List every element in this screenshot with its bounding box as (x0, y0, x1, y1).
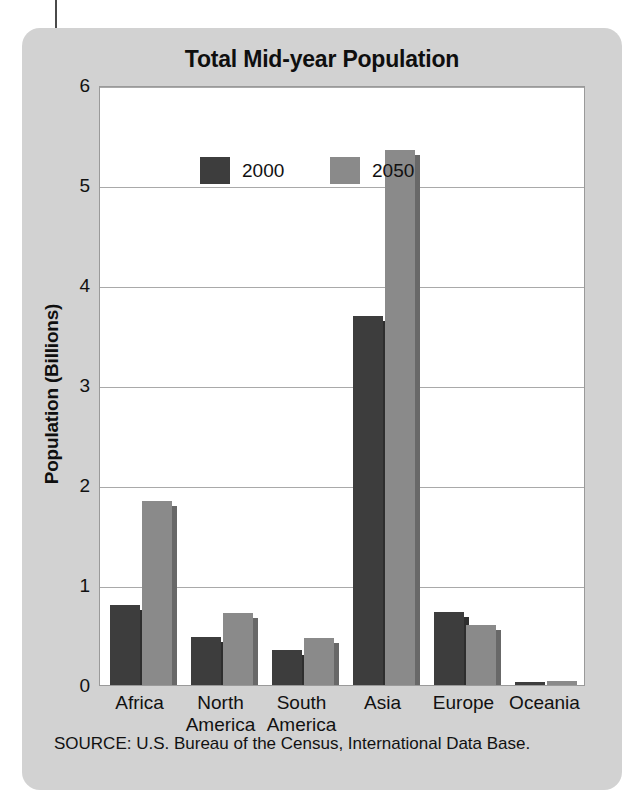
bar-2050-europe[interactable] (466, 625, 496, 685)
legend-swatch-2000 (200, 157, 230, 184)
bar-face (434, 612, 464, 685)
bar-face (385, 150, 415, 685)
bar-2000-south-america[interactable] (272, 650, 302, 685)
bar-2050-south-america[interactable] (304, 638, 334, 685)
bar-side-shadow (172, 506, 177, 685)
bar-2050-north-america[interactable] (223, 613, 253, 685)
bar-face (142, 501, 172, 685)
bar-2050-africa[interactable] (142, 501, 172, 685)
y-axis-tick-label: 0 (50, 675, 90, 697)
bar-face (110, 605, 140, 685)
bar-side-shadow (253, 618, 258, 685)
bar-group (110, 87, 172, 685)
gridline (100, 487, 584, 488)
legend-label: 2000 (242, 160, 284, 182)
y-axis-tick-label: 2 (50, 475, 90, 497)
bar-face (191, 637, 221, 685)
bar-group (515, 87, 577, 685)
gridline (100, 387, 584, 388)
page-rule (55, 0, 57, 30)
bar-2000-asia[interactable] (353, 316, 383, 685)
y-axis-tick-label: 4 (50, 275, 90, 297)
gridline (100, 187, 584, 188)
bar-face (353, 316, 383, 685)
bar-2000-oceania[interactable] (515, 682, 545, 685)
bar-face (466, 625, 496, 685)
gridline (100, 287, 584, 288)
bar-2000-north-america[interactable] (191, 637, 221, 685)
bar-group (434, 87, 496, 685)
y-axis-tick-label: 5 (50, 175, 90, 197)
source-note: SOURCE: U.S. Bureau of the Census, Inter… (54, 734, 530, 754)
x-axis-tick-label-line: America (253, 714, 350, 736)
y-axis-tick-label: 3 (50, 375, 90, 397)
bar-face (272, 650, 302, 685)
bar-2000-africa[interactable] (110, 605, 140, 685)
bar-side-shadow (334, 643, 339, 685)
bar-2050-asia[interactable] (385, 150, 415, 685)
gridline (100, 87, 584, 88)
figure-panel: Total Mid-year Population Population (Bi… (22, 28, 622, 790)
bar-2000-europe[interactable] (434, 612, 464, 685)
bar-side-shadow (496, 630, 501, 685)
bar-face (547, 681, 577, 685)
legend-label: 2050 (372, 160, 414, 182)
plot-area: 20002050 (99, 86, 585, 686)
bar-face (304, 638, 334, 685)
bar-2050-oceania[interactable] (547, 681, 577, 685)
y-axis-tick-label: 6 (50, 75, 90, 97)
legend-swatch-2050 (330, 157, 360, 184)
bar-face (223, 613, 253, 685)
chart-title: Total Mid-year Population (22, 46, 622, 73)
legend-entry-2000[interactable]: 2000 (200, 157, 284, 184)
legend-entry-2050[interactable]: 2050 (330, 157, 414, 184)
bar-face (515, 682, 545, 685)
y-axis-tick-label: 1 (50, 575, 90, 597)
x-axis-tick-label: Oceania (496, 692, 593, 714)
x-axis-tick-label-line: Oceania (496, 692, 593, 714)
bar-side-shadow (415, 155, 420, 685)
